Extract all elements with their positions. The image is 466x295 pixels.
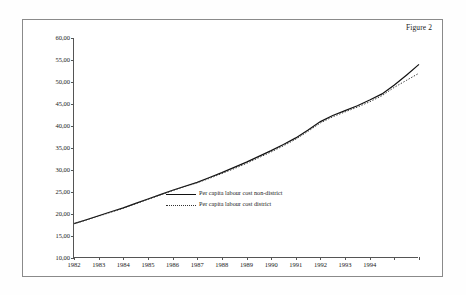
- x-tick-label: 1987: [191, 262, 204, 269]
- figure-root: Figure 2 60,0055,0050,0045,0040,0035,003…: [0, 0, 466, 295]
- x-tick-label: 1992: [314, 262, 327, 269]
- y-tick-label: 50,00: [55, 79, 70, 86]
- x-tick-mark: [247, 257, 248, 260]
- x-tick-label: 1989: [240, 262, 253, 269]
- x-tick-label: 1984: [117, 262, 130, 269]
- legend-item: Per capita labour cost non-district: [166, 188, 316, 199]
- x-tick-label: 1988: [215, 262, 228, 269]
- x-tick-label: 1983: [92, 262, 105, 269]
- x-tick-mark: [370, 257, 371, 260]
- x-tick-label: 1993: [339, 262, 352, 269]
- y-tick-label: 60,00: [55, 35, 70, 42]
- plot-area: 60,0055,0050,0045,0040,0035,0030,0025,00…: [73, 38, 418, 258]
- y-tick-label: 55,00: [55, 57, 70, 64]
- solid-line-icon: [166, 191, 196, 197]
- figure-caption: Figure 2: [406, 23, 432, 32]
- x-tick-label: 1985: [141, 262, 154, 269]
- figure-outer-frame: Figure 2 60,0055,0050,0045,0040,0035,003…: [22, 19, 443, 277]
- x-tick-mark: [123, 257, 124, 260]
- y-tick-mark: [71, 104, 74, 105]
- legend-item: Per capita labour cost district: [166, 199, 316, 210]
- x-tick-mark: [197, 257, 198, 260]
- x-tick-label: 1986: [166, 262, 179, 269]
- x-tick-mark: [271, 257, 272, 260]
- x-tick-label: 1990: [265, 262, 278, 269]
- y-tick-mark: [71, 192, 74, 193]
- y-tick-label: 45,00: [55, 101, 70, 108]
- legend-label: Per capita labour cost non-district: [199, 190, 283, 196]
- y-tick-label: 15,00: [55, 233, 70, 240]
- chart-legend: Per capita labour cost non-districtPer c…: [166, 188, 316, 210]
- y-tick-label: 40,00: [55, 123, 70, 130]
- y-tick-mark: [71, 60, 74, 61]
- x-tick-mark: [222, 257, 223, 260]
- x-tick-mark: [345, 257, 346, 260]
- x-tick-label: 1982: [68, 262, 81, 269]
- y-tick-mark: [71, 126, 74, 127]
- y-tick-label: 25,00: [55, 189, 70, 196]
- x-tick-label: 1994: [363, 262, 376, 269]
- y-tick-label: 35,00: [55, 145, 70, 152]
- dotted-line-icon: [166, 202, 196, 208]
- x-tick-label: 1991: [289, 262, 302, 269]
- y-tick-mark: [71, 170, 74, 171]
- y-tick-label: 30,00: [55, 167, 70, 174]
- x-tick-mark: [394, 257, 395, 260]
- x-tick-mark: [296, 257, 297, 260]
- y-tick-label: 20,00: [55, 211, 70, 218]
- y-tick-mark: [71, 38, 74, 39]
- y-tick-mark: [71, 148, 74, 149]
- plot-lines: [74, 38, 419, 258]
- x-tick-mark: [320, 257, 321, 260]
- x-tick-mark: [99, 257, 100, 260]
- y-tick-mark: [71, 236, 74, 237]
- y-tick-mark: [71, 82, 74, 83]
- x-tick-mark: [173, 257, 174, 260]
- legend-label: Per capita labour cost district: [199, 201, 271, 207]
- x-tick-mark: [74, 257, 75, 260]
- x-tick-mark: [419, 257, 420, 260]
- x-tick-mark: [148, 257, 149, 260]
- y-tick-mark: [71, 214, 74, 215]
